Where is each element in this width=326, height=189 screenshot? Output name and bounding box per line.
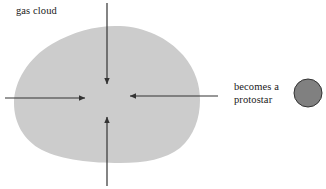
protostar-label: becomes a protostar [234, 80, 279, 106]
gas-cloud-label: gas cloud [16, 4, 57, 17]
protostar-circle [294, 79, 322, 107]
gas-cloud-protostar-diagram: gas cloud becomes a protostar [0, 0, 326, 189]
